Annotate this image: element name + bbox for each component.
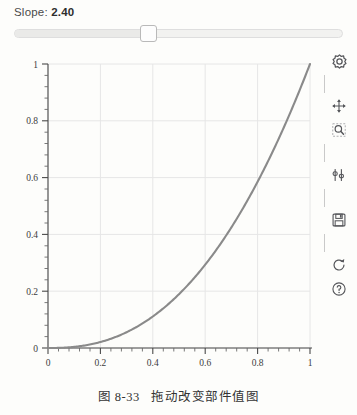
slope-label: Slope: 2.40: [14, 6, 74, 18]
slope-slider[interactable]: [14, 26, 343, 40]
slope-label-prefix: Slope:: [14, 6, 48, 18]
x-major-ticks: [48, 348, 310, 354]
x-tick-label: 0.4: [147, 358, 159, 368]
x-tick-label: 0.2: [94, 358, 106, 368]
slider-handle[interactable]: [140, 25, 157, 42]
y-major-ticks: [42, 64, 48, 348]
figure-caption-text: 拖动改变部件值图: [151, 390, 259, 404]
x-tick-label: 0.6: [199, 358, 211, 368]
x-tick-labels: 0 0.2 0.4 0.6 0.8 1: [46, 358, 313, 368]
y-tick-label: 0.6: [26, 173, 38, 183]
y-tick-label: 0: [33, 344, 38, 354]
toolbar-separator: [324, 234, 325, 252]
toolbar-separator: [324, 75, 325, 93]
home-icon[interactable]: [326, 50, 352, 72]
save-floppy-icon[interactable]: [326, 209, 352, 231]
pan-arrows-icon[interactable]: [326, 95, 352, 117]
configure-subplots-icon[interactable]: [326, 164, 352, 186]
y-tick-label: 0.8: [26, 116, 38, 126]
y-tick-label: 0.4: [26, 230, 38, 240]
refresh-icon[interactable]: [326, 254, 352, 276]
y-tick-label: 1: [33, 60, 38, 70]
figure-number: 图 8-33: [98, 390, 140, 404]
slider-fill: [15, 30, 147, 37]
matplotlib-toolbar[interactable]: [323, 50, 355, 302]
x-tick-label: 0: [46, 358, 51, 368]
toolbar-separator: [324, 189, 325, 207]
help-question-icon[interactable]: [326, 278, 352, 300]
matplotlib-plot[interactable]: 0 0.2 0.4 0.6 0.8 1 0 0.2 0.4 0.6 0.8 1: [0, 48, 320, 368]
slope-value: 2.40: [51, 6, 74, 18]
y-tick-label: 0.2: [26, 287, 38, 297]
toolbar-separator: [324, 144, 325, 162]
y-tick-labels: 0 0.2 0.4 0.6 0.8 1: [26, 60, 38, 354]
x-tick-label: 0.8: [252, 358, 264, 368]
x-tick-label: 1: [308, 358, 313, 368]
figure-caption: 图 8-33 拖动改变部件值图: [0, 386, 357, 405]
zoom-rect-icon[interactable]: [326, 119, 352, 141]
